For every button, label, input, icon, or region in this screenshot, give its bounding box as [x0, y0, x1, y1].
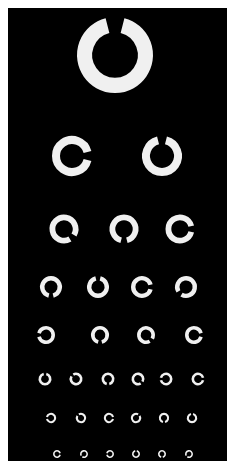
landolt-ring-gap-down: [112, 217, 135, 240]
landolt-ring-gap-down: [103, 374, 113, 384]
landolt-ring-gap-right: [168, 217, 191, 240]
landolt-ring-gap-down: [93, 328, 107, 342]
landolt-ring-gap-down-right: [52, 217, 75, 240]
landolt-rings: [0, 0, 232, 471]
landolt-ring-gap-up-right: [132, 414, 140, 422]
landolt-ring-gap-right: [193, 374, 203, 384]
landolt-ring-gap-up: [188, 414, 196, 422]
landolt-ring-gap-up: [85, 26, 146, 86]
landolt-ring-gap-down-right: [139, 328, 153, 342]
landolt-ring-gap-up: [146, 140, 178, 172]
landolt-ring-gap-right: [187, 328, 201, 342]
landolt-ring-gap-down-left: [177, 278, 195, 296]
landolt-ring-gap-down-left: [186, 451, 192, 457]
landolt-ring-gap-down: [160, 414, 168, 422]
landolt-ring-gap-left: [161, 374, 171, 384]
landolt-ring-gap-up-left: [77, 414, 85, 422]
landolt-ring-gap-right: [56, 140, 88, 172]
landolt-ring-gap-left: [107, 451, 113, 457]
landolt-ring-gap-up-left: [71, 374, 81, 384]
landolt-ring-gap-up: [89, 278, 107, 295]
landolt-ring-gap-down: [42, 278, 60, 295]
landolt-ring-gap-down-left: [81, 451, 87, 457]
landolt-ring-gap-left: [47, 414, 55, 422]
landolt-ring-gap-up: [133, 451, 139, 457]
landolt-ring-gap-right: [54, 451, 60, 457]
landolt-ring-gap-up: [40, 374, 50, 384]
landolt-ring-gap-left: [39, 328, 53, 342]
landolt-ring-gap-right: [105, 414, 113, 422]
landolt-ring-gap-down-right: [133, 374, 143, 384]
landolt-ring-gap-right: [133, 278, 150, 296]
landolt-ring-gap-down: [159, 451, 165, 457]
